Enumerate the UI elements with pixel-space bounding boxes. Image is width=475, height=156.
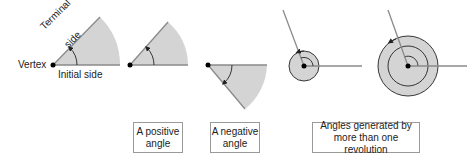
figure-two-revolutions: [378, 10, 467, 96]
initial-side-label: Initial side: [58, 69, 102, 81]
caption-revolution-line1: Angles generated by: [313, 120, 419, 132]
caption-positive-line2: angle: [134, 138, 182, 150]
caption-negative-angle: A negative angle: [210, 122, 260, 153]
caption-negative-line2: angle: [211, 138, 259, 150]
vertex-label: Vertex: [18, 59, 46, 71]
figure-anatomy: [51, 17, 121, 68]
caption-positive-angle: A positive angle: [133, 122, 183, 153]
caption-positive-line1: A positive: [134, 126, 182, 138]
figure-one-revolution: [283, 10, 362, 81]
figure-positive-angle: [128, 22, 189, 68]
caption-revolution: Angles generated by more than one revolu…: [312, 122, 420, 153]
figure-negative-angle: [206, 63, 268, 110]
caption-negative-line1: A negative: [211, 126, 259, 138]
caption-revolution-line2: more than one revolution: [313, 132, 419, 156]
